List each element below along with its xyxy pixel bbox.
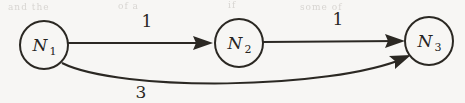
node-subscript: 1 — [50, 45, 57, 58]
arrowhead-icon — [385, 34, 405, 48]
node-subscript: 3 — [435, 41, 442, 54]
edge-weight-label: 1 — [142, 11, 153, 31]
graph-canvas: 1 1 3 N 1 N 2 N 3 — [0, 0, 465, 103]
edge-weight-label: 3 — [136, 82, 147, 102]
node-label: N — [227, 33, 244, 53]
node-label: N — [32, 35, 49, 55]
node-n1: N 1 — [20, 21, 68, 69]
edge-weight-label: 1 — [333, 9, 344, 29]
edge-n1-n2: 1 — [68, 11, 213, 50]
graph-figure: and the of a if some of 1 1 3 N 1 — [0, 0, 465, 103]
edge-n2-n3: 1 — [263, 9, 405, 48]
node-n2: N 2 — [215, 19, 263, 67]
arrowhead-icon — [193, 36, 213, 50]
edge-line — [263, 41, 399, 42]
node-subscript: 2 — [245, 43, 252, 56]
node-label: N — [417, 31, 434, 51]
node-n3: N 3 — [405, 17, 453, 65]
